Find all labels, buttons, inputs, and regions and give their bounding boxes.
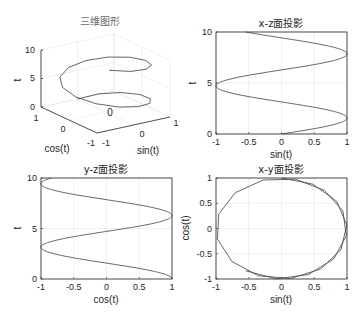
xtick-label: 1 [169, 282, 174, 292]
ztick-10: 10 [25, 45, 35, 55]
ytick-0: 0 [60, 124, 65, 134]
ylabel-3d: cos(t) [45, 143, 70, 154]
xtick-label: 0 [279, 282, 284, 292]
ztick-5: 5 [30, 73, 35, 83]
xtick-label: 0 [104, 282, 109, 292]
xtick-label: -0.5 [241, 137, 257, 147]
ytick-label: 5 [32, 224, 37, 234]
origin-zero-label: 0 [107, 107, 113, 118]
xtick-label: 0.5 [308, 137, 321, 147]
xtick-label: 0.5 [308, 282, 321, 292]
xtick-label: 0.5 [133, 282, 146, 292]
ytick-label: 10 [27, 173, 37, 183]
subplot-xz: x-z面投影 -1-0.500.510510 sin(t) t [187, 17, 350, 160]
y-axis [41, 107, 97, 133]
xtick-label: 1 [344, 282, 349, 292]
subplot-yz: y-z面投影 -1-0.500.510510 cos(t) t [12, 163, 175, 305]
ytick-label: 0 [207, 129, 212, 139]
xtick-label: -0.5 [66, 282, 82, 292]
x-axis [97, 117, 170, 133]
subplot-xy: x-y面投影 -1-0.500.51-1-0.500.51 sin(t) cos… [180, 163, 350, 305]
xlabel-xz: sin(t) [270, 149, 292, 160]
ytick-label: -1 [204, 274, 212, 284]
ytick-label: 5 [207, 78, 212, 88]
xtick-0: 0 [139, 129, 144, 139]
ylabel-xz: t [187, 81, 198, 84]
title-yz: y-z面投影 [84, 163, 129, 175]
title-3d: 三维图形 [80, 15, 120, 27]
ylabel-yz: t [12, 226, 23, 229]
title-xy: x-y面投影 [258, 163, 303, 175]
xtick-label: 0 [279, 137, 284, 147]
ytick-label: -0.5 [196, 249, 212, 259]
xlabel-xy: sin(t) [270, 294, 292, 305]
xtick-label: -1 [212, 137, 220, 147]
xtick-label: 1 [344, 137, 349, 147]
figure: 三维图形 10 5 0 t 1 0 -1 cos(t) -1 0 1 sin(t… [0, 0, 363, 327]
xlabel-yz: cos(t) [94, 294, 119, 305]
ztick-0: 0 [30, 102, 35, 112]
subplot-3d: 三维图形 10 5 0 t 1 0 -1 cos(t) -1 0 1 sin(t… [12, 15, 179, 156]
ylabel-xy: cos(t) [180, 216, 191, 241]
ytick-label: 0.5 [199, 198, 212, 208]
ytick-label: 0 [207, 224, 212, 234]
ytick-1: 1 [33, 113, 38, 123]
xtick-label: -1 [212, 282, 220, 292]
xlabel-3d: sin(t) [137, 145, 159, 156]
ytick-label: 10 [202, 27, 212, 37]
xtick-1: 1 [173, 118, 178, 128]
zlabel-3d: t [12, 78, 23, 81]
ytick-label: 0 [32, 274, 37, 284]
ytick-neg1: -1 [87, 138, 95, 148]
xtick-label: -1 [37, 282, 45, 292]
ytick-label: 1 [207, 173, 212, 183]
xtick-neg1: -1 [102, 138, 110, 148]
xtick-label: -0.5 [241, 282, 257, 292]
title-xz: x-z面投影 [259, 17, 304, 29]
